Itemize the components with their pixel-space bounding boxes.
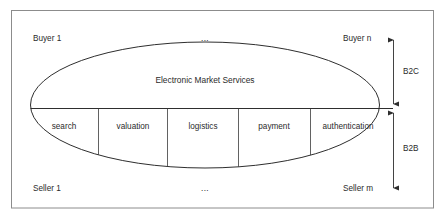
b2c-axis-label: B2C: [403, 67, 419, 76]
buyer-last-label: Buyer n: [343, 34, 372, 43]
diagram-page: Buyer 1 ... Buyer n Electronic Market Se…: [0, 0, 446, 220]
service-cell-payment: payment: [258, 122, 290, 131]
seller-first-label: Seller 1: [33, 184, 61, 193]
seller-last-label: Seller m: [343, 184, 373, 193]
service-cell-dividers: [99, 109, 311, 171]
service-cell-authentication: authentication: [323, 122, 374, 131]
buyer-first-label: Buyer 1: [33, 34, 62, 43]
sellers-ellipsis-label: ...: [201, 184, 209, 193]
buyers-ellipsis-label: ...: [201, 34, 209, 43]
diagram-title: Electronic Market Services: [155, 75, 254, 85]
b2b-axis-label: B2B: [403, 144, 419, 153]
service-cell-valuation: valuation: [117, 122, 150, 131]
electronic-market-diagram: Buyer 1 ... Buyer n Electronic Market Se…: [0, 0, 446, 220]
service-cell-logistics: logistics: [188, 122, 217, 131]
electronic-market-ellipse: [31, 42, 380, 168]
service-cell-search: search: [52, 122, 77, 131]
